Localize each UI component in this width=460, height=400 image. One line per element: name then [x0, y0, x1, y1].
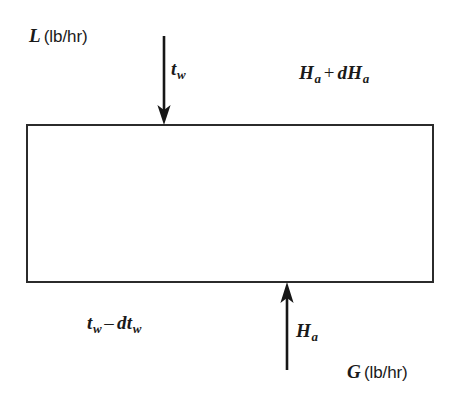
water-temp-out-subscript-2: w	[133, 321, 142, 336]
control-volume-rectangle	[26, 124, 434, 283]
water-inlet-arrow	[152, 34, 178, 130]
liquid-flow-units: (lb/hr)	[41, 27, 88, 46]
water-temp-out-symbol-2: dt	[117, 312, 132, 333]
air-enthalpy-out-label: Ha+dHa	[299, 63, 369, 82]
water-temp-out-label: tw–dtw	[87, 313, 141, 332]
liquid-flow-symbol: L	[29, 25, 41, 46]
water-temp-in-subscript: w	[177, 67, 186, 82]
water-temp-out-operator: –	[101, 312, 117, 333]
air-enthalpy-out-subscript-1: a	[314, 71, 321, 86]
water-temp-in-symbol: t	[171, 58, 176, 79]
air-enthalpy-out-operator: +	[321, 62, 338, 83]
gas-flow-units: (lb/hr)	[361, 363, 408, 382]
air-enthalpy-out-symbol-2: dH	[338, 62, 363, 83]
air-enthalpy-in-label: Ha	[296, 321, 318, 340]
gas-flow-label: G(lb/hr)	[347, 362, 408, 381]
liquid-flow-label: L(lb/hr)	[29, 26, 88, 45]
gas-flow-symbol: G	[347, 361, 361, 382]
air-enthalpy-in-symbol: H	[296, 320, 311, 341]
air-enthalpy-in-subscript: a	[311, 329, 318, 344]
air-enthalpy-out-symbol-1: H	[299, 62, 314, 83]
water-temp-out-symbol-1: t	[87, 312, 92, 333]
diagram-canvas: L(lb/hr) tw Ha+dHa tw–dtw Ha G(lb/hr)	[0, 0, 460, 400]
water-temp-out-subscript-1: w	[93, 321, 102, 336]
water-temp-in-label: tw	[171, 59, 185, 78]
air-enthalpy-out-subscript-2: a	[363, 71, 370, 86]
